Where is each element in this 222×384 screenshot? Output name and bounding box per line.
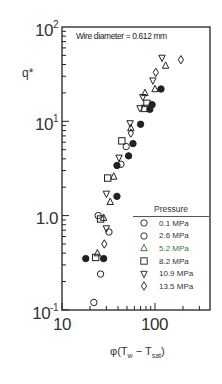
legend-item-label: 8.2 MPa [155, 257, 189, 266]
ytick-100: 102 [35, 20, 58, 39]
diamond-icon [133, 281, 155, 291]
triangle-down-icon [116, 155, 122, 161]
legend-item: 5.2 MPa [133, 242, 211, 255]
legend-item: 10.9 MPa [133, 267, 211, 280]
legend-item-label: 0.1 MPa [155, 219, 189, 228]
triangle-down-icon [159, 55, 165, 61]
xtick-10: 10 [53, 316, 71, 333]
filled-circle-icon [83, 255, 89, 261]
circle-icon [97, 271, 103, 277]
legend-item-label: 13.5 MPa [155, 282, 193, 291]
legend-item-label: 5.2 MPa [155, 244, 189, 253]
triangle-up-icon [94, 249, 100, 255]
diamond-icon [178, 56, 183, 64]
x-axis-label: φ(Tw − Tsat) [110, 345, 165, 359]
circle-icon [91, 299, 97, 305]
ytick-10: 101 [35, 114, 58, 133]
triangle-down-icon [133, 269, 155, 279]
legend-item: 0.1 MPa [133, 217, 211, 230]
triangle-down-icon [150, 78, 156, 84]
chart-canvas [0, 0, 222, 384]
circle-icon [133, 218, 155, 228]
square-icon [141, 258, 147, 264]
filled-circle-icon [158, 86, 164, 92]
square-icon [92, 254, 98, 260]
triangle-up-icon [141, 245, 147, 251]
triangle-down-icon [103, 191, 109, 197]
triangle-up-icon [111, 173, 117, 179]
legend-item: 13.5 MPa [133, 280, 211, 293]
legend-item: 2.6 MPa [133, 230, 211, 243]
legend: Pressure 0.1 MPa2.6 MPa5.2 MPa8.2 MPa10.… [133, 204, 211, 293]
circle-icon [141, 233, 147, 239]
filled-circle-icon [130, 140, 136, 146]
filled-circle-icon [114, 193, 120, 199]
y-axis-label: q* [22, 66, 33, 80]
triangle-up-icon [152, 85, 158, 91]
filled-circle-icon [125, 153, 131, 159]
legend-item-label: 2.6 MPa [155, 231, 189, 240]
filled-circle-icon [114, 162, 120, 168]
triangle-up-icon [133, 243, 155, 253]
wire-diameter-annotation: Wire diameter = 0.612 mm [76, 31, 167, 41]
square-icon [133, 256, 155, 266]
diamond-icon [153, 68, 158, 76]
xtick-100: 100 [141, 316, 168, 333]
diamond-icon [102, 240, 107, 248]
circle-icon [133, 231, 155, 241]
square-icon [104, 175, 110, 181]
diamond-icon [141, 282, 146, 290]
legend-item-label: 10.9 MPa [155, 269, 193, 278]
filled-circle-icon [100, 255, 106, 261]
ytick-1: 1.0 [36, 210, 58, 227]
triangle-up-icon [162, 62, 168, 68]
circle-icon [141, 220, 147, 226]
legend-title: Pressure [133, 204, 209, 217]
square-icon [119, 138, 125, 144]
series-2-6-mpa [91, 143, 130, 305]
triangle-up-icon [107, 198, 113, 204]
filled-circle-icon [137, 121, 143, 127]
legend-item: 8.2 MPa [133, 255, 211, 268]
triangle-down-icon [141, 271, 147, 277]
diamond-icon [128, 129, 133, 137]
